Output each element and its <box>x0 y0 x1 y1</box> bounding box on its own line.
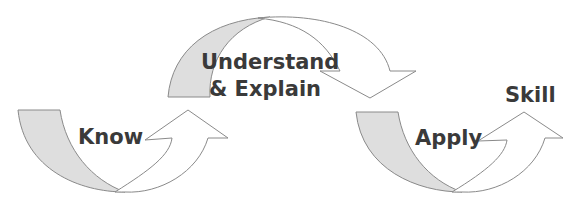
apply-label: Apply <box>415 128 482 149</box>
skill-label: Skill <box>505 85 556 106</box>
explain-label: & Explain <box>209 79 321 100</box>
apply-arrow-body <box>452 112 563 192</box>
apply-arrow <box>356 112 563 192</box>
know-label: Know <box>78 127 143 148</box>
know-arrow <box>18 110 228 192</box>
know-arrow-shade <box>18 110 125 192</box>
understand-label: Understand <box>201 52 339 73</box>
apply-arrow-shade <box>356 112 462 192</box>
curved-arrows-diagram <box>0 0 579 207</box>
know-arrow-body <box>115 110 228 192</box>
